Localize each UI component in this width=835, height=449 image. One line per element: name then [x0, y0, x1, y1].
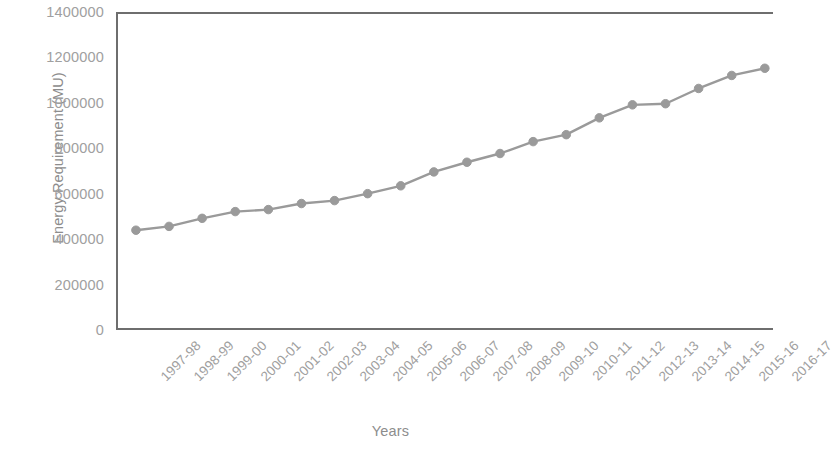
x-axis-tick-2010-11: 2010-11 — [589, 338, 634, 383]
y-axis-tick-1400000: 1400000 — [46, 4, 104, 20]
x-axis-tick-1997-98: 1997-98 — [158, 338, 204, 384]
data-point-2006-07 — [430, 168, 439, 176]
y-axis-tick-200000: 200000 — [54, 277, 104, 293]
y-axis-tick-1000000: 1000000 — [46, 95, 104, 111]
x-axis-tick-2005-06: 2005-06 — [423, 338, 469, 384]
y-axis-tick-0: 0 — [96, 322, 104, 338]
data-point-2016-17 — [761, 64, 770, 72]
x-axis-tick-1999-00: 1999-00 — [224, 338, 270, 384]
x-axis-tick-2015-16: 2015-16 — [755, 338, 801, 384]
y-axis-tick-800000: 800000 — [54, 140, 104, 156]
data-point-2014-15 — [694, 84, 703, 92]
x-axis-tick-2013-14: 2013-14 — [689, 338, 735, 384]
x-axis-tick-1998-99: 1998-99 — [191, 338, 237, 384]
series-line — [136, 68, 765, 230]
x-axis-title: Years — [0, 423, 773, 439]
y-axis-tick-labels: 0200000400000600000800000100000012000001… — [0, 0, 108, 449]
y-axis-tick-1200000: 1200000 — [46, 49, 104, 65]
x-axis-tick-2002-03: 2002-03 — [324, 338, 370, 384]
y-axis-tick-600000: 600000 — [54, 186, 104, 202]
data-point-1997-98 — [132, 226, 141, 234]
data-point-2015-16 — [727, 71, 736, 79]
x-axis-tick-2000-01: 2000-01 — [257, 338, 303, 384]
x-axis-tick-2011-12: 2011-12 — [622, 338, 667, 383]
data-point-2012-13 — [628, 101, 637, 109]
plot-area — [116, 12, 773, 330]
data-point-2000-01 — [231, 207, 240, 215]
x-axis-tick-2006-07: 2006-07 — [457, 338, 503, 384]
data-point-2001-02 — [264, 205, 273, 213]
x-axis-tick-2016-17: 2016-17 — [789, 338, 835, 384]
data-point-1999-00 — [198, 214, 207, 222]
data-point-2007-08 — [463, 158, 472, 166]
x-axis-tick-2014-15: 2014-15 — [722, 338, 768, 384]
x-axis-tick-2007-08: 2007-08 — [490, 338, 536, 384]
data-point-2005-06 — [396, 182, 405, 190]
data-point-2011-12 — [595, 114, 604, 122]
y-axis-tick-400000: 400000 — [54, 231, 104, 247]
data-point-2009-10 — [529, 137, 538, 145]
x-axis-tick-2008-09: 2008-09 — [523, 338, 569, 384]
data-series-svg — [118, 14, 773, 328]
data-point-2013-14 — [661, 99, 670, 107]
x-axis-title-label: Years — [372, 423, 410, 439]
x-axis-tick-2001-02: 2001-02 — [291, 338, 337, 384]
data-point-2004-05 — [363, 189, 372, 197]
x-axis-tick-2009-10: 2009-10 — [556, 338, 602, 384]
data-point-2008-09 — [496, 149, 505, 157]
data-point-2003-04 — [330, 196, 339, 204]
data-point-2002-03 — [297, 199, 306, 207]
data-point-2010-11 — [562, 130, 571, 138]
x-axis-tick-2003-04: 2003-04 — [357, 338, 403, 384]
x-axis-tick-2012-13: 2012-13 — [656, 338, 702, 384]
x-axis-tick-2004-05: 2004-05 — [390, 338, 436, 384]
data-point-1998-99 — [165, 222, 174, 230]
